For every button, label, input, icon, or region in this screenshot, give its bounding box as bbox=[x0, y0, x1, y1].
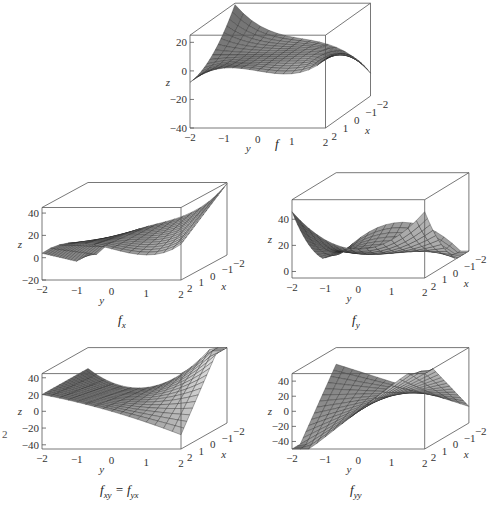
y-tick-label: −2 bbox=[36, 283, 48, 295]
z-tick-label: −20 bbox=[170, 93, 188, 105]
x-tick-label: 0 bbox=[453, 438, 459, 450]
x-tick-label: −1 bbox=[464, 432, 476, 444]
z-tick-label: 20 bbox=[28, 389, 40, 401]
z-tick-label: 0 bbox=[34, 405, 40, 417]
surface-plot-fx: 40200−20z−2−1012y210−1−2x bbox=[20, 180, 250, 305]
z-tick-label: 20 bbox=[278, 239, 290, 251]
z-tick-label: 20 bbox=[28, 229, 40, 241]
x-tick-label: −1 bbox=[222, 263, 234, 275]
caption-f: f bbox=[275, 136, 279, 152]
x-axis-label: x bbox=[364, 124, 370, 136]
x-tick-label: 0 bbox=[453, 267, 459, 279]
y-tick-label: −2 bbox=[184, 131, 196, 143]
x-tick-label: −2 bbox=[377, 98, 389, 110]
plot-box bbox=[292, 173, 469, 278]
surface-plot-fyy: 40200−20−40z−2−1012y210−1−2x bbox=[270, 345, 491, 475]
z-tick-label: 0 bbox=[284, 405, 290, 417]
x-tick-label: −2 bbox=[233, 257, 245, 269]
y-tick-label: −1 bbox=[319, 282, 331, 294]
y-tick-label: 1 bbox=[389, 285, 395, 297]
z-tick-label: 20 bbox=[278, 390, 290, 402]
surface-mesh bbox=[42, 184, 227, 262]
x-tick-label: 0 bbox=[210, 438, 216, 450]
y-tick-label: 0 bbox=[356, 454, 362, 466]
y-axis-label: y bbox=[346, 292, 352, 304]
y-tick-label: −1 bbox=[71, 453, 83, 465]
z-tick-label: −40 bbox=[22, 439, 40, 451]
z-axis-label: z bbox=[267, 405, 273, 417]
x-axis-label: x bbox=[463, 448, 469, 460]
z-tick-label: 40 bbox=[278, 213, 290, 225]
z-tick-label: −20 bbox=[22, 422, 40, 434]
left-margin-fragment: 2 bbox=[2, 428, 8, 440]
y-tick-label: 2 bbox=[178, 288, 184, 300]
y-tick-label: 2 bbox=[422, 286, 428, 298]
y-tick-label: 2 bbox=[422, 457, 428, 469]
z-tick-label: 0 bbox=[182, 65, 188, 77]
surface-mesh bbox=[292, 212, 469, 259]
x-tick-label: 2 bbox=[187, 282, 193, 294]
x-tick-label: −2 bbox=[233, 425, 245, 437]
z-axis-label: z bbox=[17, 238, 23, 250]
y-tick-label: 0 bbox=[109, 285, 115, 297]
y-tick-label: 1 bbox=[289, 135, 295, 147]
y-tick-label: 1 bbox=[144, 456, 150, 468]
surface-mesh bbox=[42, 348, 227, 435]
x-tick-label: −1 bbox=[222, 432, 234, 444]
x-tick-label: −1 bbox=[365, 106, 377, 118]
y-tick-label: −2 bbox=[286, 452, 298, 464]
y-tick-label: 2 bbox=[178, 457, 184, 469]
y-tick-label: −1 bbox=[319, 453, 331, 465]
x-tick-label: −2 bbox=[475, 253, 487, 265]
y-tick-label: −2 bbox=[286, 281, 298, 293]
x-tick-label: 2 bbox=[431, 451, 437, 463]
x-tick-label: −2 bbox=[475, 425, 487, 437]
x-tick-label: 2 bbox=[332, 130, 338, 142]
z-tick-label: 40 bbox=[28, 207, 40, 219]
y-tick-label: 0 bbox=[356, 283, 362, 295]
z-tick-label: 20 bbox=[176, 36, 188, 48]
x-tick-label: 1 bbox=[442, 273, 448, 285]
x-tick-label: 0 bbox=[354, 114, 360, 126]
x-tick-label: −1 bbox=[464, 260, 476, 272]
z-axis-label: z bbox=[267, 233, 273, 245]
y-axis-label: y bbox=[245, 142, 251, 154]
y-tick-label: −2 bbox=[36, 452, 48, 464]
y-axis-label: y bbox=[98, 463, 104, 475]
x-axis-label: x bbox=[220, 280, 226, 292]
surface-plot-fxy: 40200−20−40z−2−1012y210−1−2x bbox=[20, 345, 250, 475]
z-tick-label: −40 bbox=[272, 435, 290, 447]
x-tick-label: 1 bbox=[343, 122, 349, 134]
x-tick-label: 2 bbox=[187, 451, 193, 463]
x-tick-label: 1 bbox=[199, 445, 205, 457]
x-tick-label: 2 bbox=[431, 280, 437, 292]
caption-fy: fy bbox=[352, 312, 360, 330]
y-tick-label: 1 bbox=[389, 456, 395, 468]
y-tick-label: 0 bbox=[109, 454, 115, 466]
x-axis-label: x bbox=[463, 277, 469, 289]
caption-fxy: fxy = fyx bbox=[100, 482, 139, 500]
surface-mesh bbox=[292, 364, 469, 449]
z-tick-label: 0 bbox=[284, 265, 290, 277]
caption-fyy: fyy bbox=[350, 482, 362, 500]
y-tick-label: −1 bbox=[218, 132, 230, 144]
x-tick-label: 1 bbox=[442, 445, 448, 457]
z-tick-label: 40 bbox=[278, 375, 290, 387]
z-tick-label: 0 bbox=[34, 252, 40, 264]
x-axis-label: x bbox=[220, 448, 226, 460]
y-axis-label: y bbox=[98, 294, 104, 306]
x-tick-label: 1 bbox=[199, 276, 205, 288]
x-tick-label: 0 bbox=[210, 270, 216, 282]
caption-fx: fx bbox=[118, 312, 126, 330]
surface-plot-fy: 40200z−2−1012y210−1−2x bbox=[270, 170, 491, 305]
y-tick-label: 1 bbox=[144, 287, 150, 299]
surface-plot-f: 200−20−40z−2−1012y210−1−2x bbox=[168, 0, 393, 160]
z-axis-label: z bbox=[17, 405, 23, 417]
z-tick-label: 40 bbox=[28, 372, 40, 384]
y-tick-label: 2 bbox=[323, 136, 329, 148]
y-tick-label: −1 bbox=[71, 284, 83, 296]
z-axis-label: z bbox=[165, 76, 171, 88]
y-axis-label: y bbox=[346, 463, 352, 475]
y-tick-label: 0 bbox=[255, 133, 261, 145]
z-tick-label: −20 bbox=[272, 420, 290, 432]
